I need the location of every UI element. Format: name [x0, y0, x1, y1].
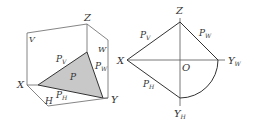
label-z: Z — [83, 12, 92, 23]
trace-ph — [127, 60, 180, 98]
label-ph-right: PH — [142, 79, 155, 90]
label-yh: YH — [174, 108, 187, 120]
label-p: P — [69, 72, 77, 82]
diagram-canvas: Z V W X Y H P PV PW PH Z X O YW YH PV PW… — [0, 0, 254, 130]
label-pw-right: PW — [198, 28, 212, 39]
label-x-right: X — [116, 55, 125, 66]
w-plane-top-edge — [87, 24, 108, 40]
label-w: W — [98, 45, 107, 54]
label-pv: PV — [55, 54, 67, 65]
label-ph: PH — [55, 90, 68, 101]
label-x: X — [16, 79, 25, 90]
left-labels: Z V W X Y H P PV PW PH — [16, 12, 119, 106]
label-h: H — [44, 96, 53, 106]
label-y: Y — [111, 94, 119, 105]
v-plane-top-edge — [27, 24, 87, 33]
trace-pv — [127, 22, 180, 60]
label-z-right: Z — [175, 5, 184, 16]
label-o: O — [182, 62, 190, 73]
label-pw: PW — [94, 61, 108, 72]
label-pv-right: PV — [139, 30, 151, 41]
label-yw: YW — [228, 55, 242, 67]
label-v: V — [29, 35, 36, 44]
projection-diagram: Z V W X Y H P PV PW PH Z X O YW YH PV PW… — [0, 0, 254, 130]
